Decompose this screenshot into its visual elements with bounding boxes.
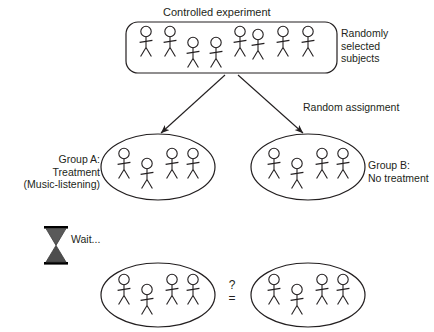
randomly-selected-subjects-label: Randomly selected subjects (341, 27, 388, 65)
group-a-ellipse (101, 134, 215, 200)
outcome-a-ellipse (101, 263, 215, 327)
group-a-label: Group A: Treatment (Music-listening) (0, 153, 100, 191)
hourglass-icon (44, 226, 68, 265)
equals-symbol: = (222, 292, 242, 304)
wait-label: Wait... (71, 233, 100, 246)
outcome-b-ellipse (251, 263, 365, 327)
random-assignment-label: Random assignment (303, 101, 399, 114)
diagram-title: Controlled experiment (163, 6, 271, 19)
arrow-to-group-a (161, 75, 225, 133)
question-mark-symbol: ? (222, 279, 242, 291)
diagram-canvas: Controlled experiment Randomly selected … (0, 0, 434, 332)
group-b-ellipse (251, 134, 365, 200)
arrow-to-group-b (238, 75, 303, 133)
group-b-label: Group B: No treatment (368, 159, 429, 184)
subject-pool-box (126, 22, 337, 73)
